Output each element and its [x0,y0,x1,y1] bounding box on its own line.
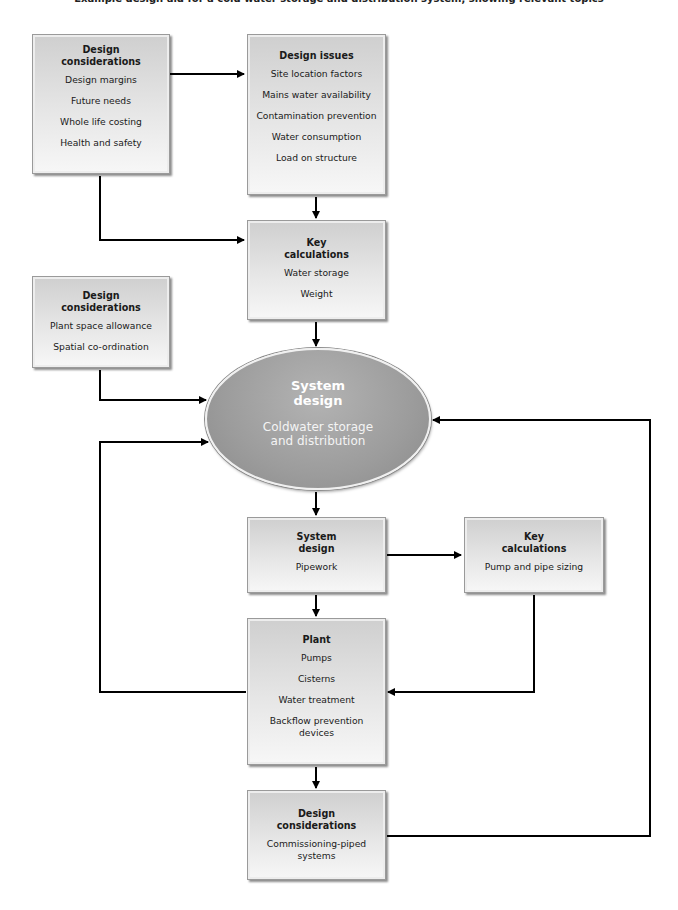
node-title: Design considerations [33,44,169,68]
node-item: Plant space allowance [33,320,169,332]
node-item: Commissioning-piped systems [248,838,385,862]
node-system-design-pipework: System design Pipework [247,517,386,593]
node-title: System design [248,531,385,555]
node-item: Water storage [248,267,385,279]
node-title: Design issues [248,50,385,62]
node-title: Key calculations [465,531,603,555]
arrow-dc2-to-core [100,370,206,400]
arrow-plant-loop-to-core [100,442,246,692]
node-item: Mains water availability [248,89,385,101]
node-key-calculations-1: Key calculations Water storage Weight [247,220,386,320]
arrow-dc3-loop-to-core [387,420,650,836]
node-item: Pump and pipe sizing [465,561,603,573]
node-system-design-core: System design Coldwater storage and dist… [205,348,431,490]
node-title: Plant [248,634,385,646]
node-key-calculations-2: Key calculations Pump and pipe sizing [464,517,604,593]
arrow-dc1-to-keycalc [100,176,244,240]
node-subtitle: Coldwater storage and distribution [207,420,429,448]
node-design-issues: Design issues Site location factors Main… [247,34,386,195]
node-item: Health and safety [33,137,169,149]
node-item: Site location factors [248,68,385,80]
node-item: Weight [248,288,385,300]
node-design-considerations-1: Design considerations Design margins Fut… [32,34,170,174]
node-item: Contamination prevention [248,110,385,122]
node-item: Pumps [248,652,385,664]
node-item: Water treatment [248,694,385,706]
node-title: Design considerations [248,808,385,832]
node-item: Water consumption [248,131,385,143]
node-item: Design margins [33,74,169,86]
node-plant: Plant Pumps Cisterns Water treatment Bac… [247,618,386,765]
node-item: Future needs [33,95,169,107]
node-item: Pipework [248,561,385,573]
node-design-considerations-3: Design considerations Commissioning-pipe… [247,790,386,880]
node-item: Load on structure [248,152,385,164]
node-item: Whole life costing [33,116,169,128]
node-design-considerations-2: Design considerations Plant space allowa… [32,276,170,368]
node-title: Design considerations [33,290,169,314]
node-item: Spatial co-ordination [33,341,169,353]
node-item: Cisterns [248,673,385,685]
node-title: Key calculations [248,237,385,261]
node-title: System design [207,378,429,408]
arrow-pumpcalc-to-plant [388,595,534,692]
node-item: Backflow prevention devices [248,715,385,739]
